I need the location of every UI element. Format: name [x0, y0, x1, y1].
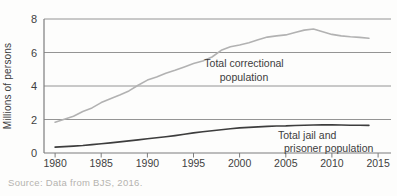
x-tick-label-1980: 1980 — [43, 157, 67, 169]
y-axis-title: Millions of persons — [2, 43, 13, 130]
source-note: Source: Data from BJS, 2016. — [8, 177, 143, 188]
axes — [44, 19, 391, 158]
x-tick-label-1995: 1995 — [182, 157, 206, 169]
label-total-jail-line-1: Total jail and — [278, 129, 337, 141]
correctional-population-chart: 1980198519901995200020052010201502468 To… — [0, 0, 397, 196]
x-tick-label-2000: 2000 — [228, 157, 252, 169]
label-total-correctional-line-2: population — [220, 71, 269, 83]
chart-canvas: 1980198519901995200020052010201502468 To… — [0, 0, 397, 196]
y-axis-title-text: Millions of persons — [2, 43, 13, 130]
y-tick-label-2: 2 — [31, 114, 37, 126]
y-tick-label-4: 4 — [31, 80, 37, 92]
label-total-jail-line-2: prisoner population — [284, 142, 373, 154]
x-tick-label-2010: 2010 — [320, 157, 344, 169]
x-tick-label-2005: 2005 — [274, 157, 298, 169]
gridlines — [44, 19, 391, 120]
y-tick-label-6: 6 — [31, 47, 37, 59]
series-annotations: Total correctionalpopulationTotal jail a… — [204, 57, 373, 154]
y-tick-label-8: 8 — [31, 13, 37, 25]
y-tick-label-0: 0 — [31, 147, 37, 159]
series-line-total-correctional-population — [55, 29, 369, 122]
x-tick-label-1985: 1985 — [90, 157, 114, 169]
x-tick-label-2015: 2015 — [366, 157, 390, 169]
x-tick-label-1990: 1990 — [136, 157, 160, 169]
label-total-correctional-line-1: Total correctional — [204, 57, 283, 69]
